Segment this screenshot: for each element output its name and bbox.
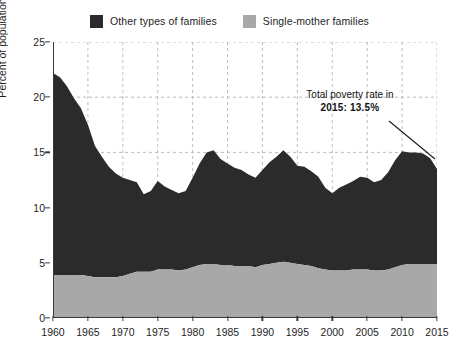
y-tick-label: 25 [33,36,45,48]
y-tick-mark [45,41,50,42]
y-tick-mark [45,152,50,153]
y-tick-label: 10 [33,202,45,214]
chart-legend: Other types of families Single-mother fa… [0,10,459,32]
x-tick-mark [436,316,437,321]
legend-item-other-types: Other types of families [90,15,217,28]
annotation-total-poverty-rate: Total poverty rate in 2015: 13.5% [286,88,414,114]
legend-swatch-gray-icon [243,15,256,28]
x-tick-label: 2010 [390,326,413,338]
x-tick-mark [401,316,402,321]
x-tick-mark [52,316,53,321]
y-axis-ticks: 0510152025 [0,42,45,318]
y-tick-mark [45,317,50,318]
x-tick-label: 1985 [216,326,239,338]
x-tick-label: 1960 [41,326,64,338]
legend-swatch-dark-icon [90,15,103,28]
x-tick-label: 1995 [286,326,309,338]
x-tick-mark [367,316,368,321]
x-tick-label: 2000 [321,326,344,338]
x-tick-mark [192,316,193,321]
x-tick-mark [262,316,263,321]
x-tick-mark [297,316,298,321]
x-tick-label: 1970 [111,326,134,338]
annotation-line-2: 2015: 13.5% [286,101,414,114]
x-tick-label: 1975 [146,326,169,338]
x-tick-mark [122,316,123,321]
x-tick-label: 2005 [355,326,378,338]
legend-item-single-mother: Single-mother families [243,15,369,28]
annotation-line-1: Total poverty rate in [286,88,414,101]
y-tick-mark [45,207,50,208]
plot-frame [53,42,437,318]
legend-label-other-types: Other types of families [110,15,217,27]
x-tick-label: 1990 [251,326,274,338]
x-axis-ticks: 1960196519701975198019851990199520002005… [53,320,437,344]
legend-label-single-mother: Single-mother families [263,15,369,27]
y-tick-label: 15 [33,146,45,158]
x-tick-mark [227,316,228,321]
x-tick-mark [332,316,333,321]
y-tick-label: 20 [33,91,45,103]
x-tick-label: 1965 [76,326,99,338]
x-tick-label: 2015 [425,326,448,338]
x-tick-mark [157,316,158,321]
plot-area [53,42,437,318]
x-tick-mark [87,316,88,321]
y-tick-mark [45,97,50,98]
x-tick-label: 1980 [181,326,204,338]
poverty-rate-area-chart: Other types of families Single-mother fa… [0,0,459,347]
y-tick-mark [45,262,50,263]
